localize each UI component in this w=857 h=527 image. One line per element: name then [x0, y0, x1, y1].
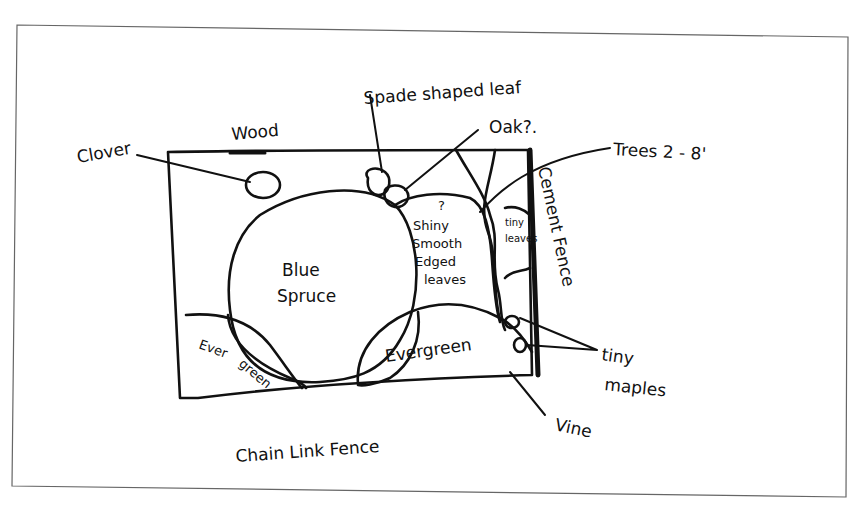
- label-shiny-q: ?: [438, 198, 445, 213]
- label-wood: Wood: [231, 120, 280, 144]
- label-blue-spruce-1: Blue: [282, 260, 320, 280]
- label-tiny-leaves-2: leaves: [505, 233, 537, 244]
- label-shiny-3: Edged: [415, 254, 456, 269]
- label-shiny-4: leaves: [424, 272, 466, 287]
- label-blue-spruce-2: Spruce: [277, 286, 336, 306]
- label-shiny-1: Shiny: [413, 218, 449, 233]
- label-tiny-leaves-1: tiny: [505, 217, 524, 228]
- label-shiny-2: Smooth: [412, 236, 462, 251]
- sketch-diagram: Clover Wood Spade shaped leaf Oak?. Tree…: [0, 0, 857, 527]
- label-oak: Oak?.: [489, 117, 537, 137]
